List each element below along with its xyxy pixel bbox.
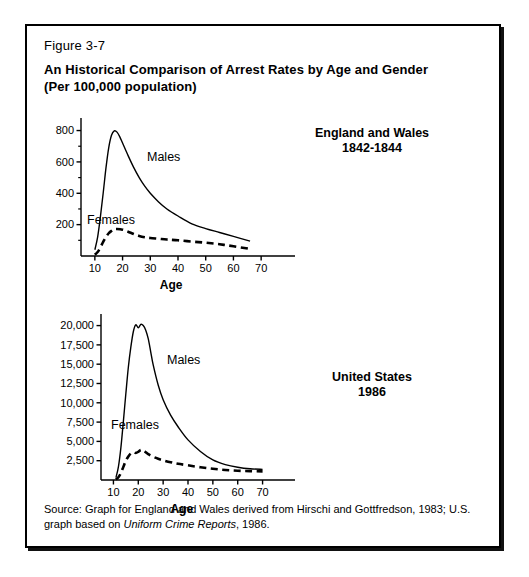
x-tick-label: 10: [89, 262, 101, 274]
y-tick-label: 17,500: [60, 339, 94, 351]
chart-england-and-wales: 20040060080010203040506070MalesFemalesAg…: [27, 104, 503, 304]
x-tick-label: 20: [132, 486, 144, 498]
series-label-males: Males: [147, 150, 180, 164]
series-line-males: [95, 131, 250, 250]
source-note: Source: Graph for England and Wales deri…: [44, 502, 482, 531]
series-line-males: [116, 324, 263, 477]
region-label-england-years: 1842-1844: [277, 141, 467, 156]
region-label-england-name: England and Wales: [277, 126, 467, 141]
source-note-suffix: , 1986.: [236, 518, 270, 530]
x-tick-label: 60: [232, 486, 244, 498]
chart-united-states-svg: 2,5005,0007,50010,00012,50015,00017,5002…: [27, 298, 503, 528]
x-tick-label: 60: [227, 262, 239, 274]
figure-number: Figure 3-7: [44, 38, 105, 53]
figure-title-line-1: An Historical Comparison of Arrest Rates…: [44, 62, 428, 77]
x-tick-label: 20: [116, 262, 128, 274]
y-tick-label: 12,500: [60, 377, 94, 389]
y-tick-label: 2,500: [66, 454, 94, 466]
x-tick-label: 10: [107, 486, 119, 498]
series-label-females: Females: [111, 418, 159, 432]
x-tick-label: 50: [207, 486, 219, 498]
region-label-us-name: United States: [277, 370, 467, 385]
figure-title: An Historical Comparison of Arrest Rates…: [44, 61, 474, 95]
x-tick-label: 30: [144, 262, 156, 274]
region-label-united-states: United States 1986: [277, 370, 467, 400]
series-label-females: Females: [87, 213, 135, 227]
y-tick-label: 600: [56, 156, 74, 168]
y-tick-label: 15,000: [60, 358, 94, 370]
y-tick-label: 10,000: [60, 397, 94, 409]
series-line-females: [116, 450, 263, 480]
figure-frame: Figure 3-7 An Historical Comparison of A…: [25, 24, 501, 548]
x-tick-label: 40: [182, 486, 194, 498]
region-label-us-year: 1986: [277, 385, 467, 400]
y-tick-label: 20,000: [60, 319, 94, 331]
series-line-females: [95, 229, 250, 255]
x-tick-label: 40: [172, 262, 184, 274]
series-label-males: Males: [167, 353, 200, 367]
x-tick-label: 70: [255, 262, 267, 274]
y-tick-label: 7,500: [66, 416, 94, 428]
region-label-england: England and Wales 1842-1844: [277, 126, 467, 156]
y-tick-label: 5,000: [66, 435, 94, 447]
figure-title-line-2: (Per 100,000 population): [44, 78, 474, 95]
y-tick-label: 800: [56, 124, 74, 136]
x-tick-label: 30: [157, 486, 169, 498]
y-tick-label: 400: [56, 187, 74, 199]
chart-united-states: 2,5005,0007,50010,00012,50015,00017,5002…: [27, 298, 503, 528]
x-tick-label: 70: [256, 486, 268, 498]
source-note-publication: Uniform Crime Reports: [124, 518, 236, 530]
x-tick-label: 50: [200, 262, 212, 274]
x-axis-title: Age: [160, 278, 183, 292]
y-tick-label: 200: [56, 218, 74, 230]
